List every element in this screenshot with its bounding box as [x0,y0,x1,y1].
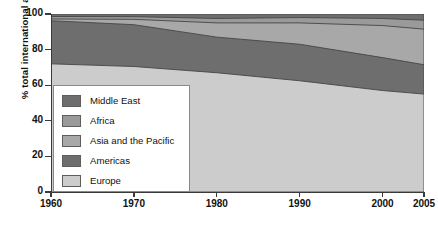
x-tick-label: 1970 [112,198,156,209]
y-tick-label: 60 [0,78,43,89]
x-tick-mark [423,192,424,197]
x-tick-mark [50,192,51,197]
legend-swatch [62,175,81,187]
x-axis-line [51,192,425,193]
y-tick-mark [45,13,51,14]
x-tick-mark [133,192,134,197]
legend-item: Asia and the Pacific [62,131,189,151]
x-tick-label: 2000 [361,198,405,209]
x-tick-mark [382,192,383,197]
x-tick-mark [216,192,217,197]
legend-swatch [62,95,81,107]
legend-label: Americas [90,156,130,166]
stacked-area-chart: % total international arrivals 020406080… [0,0,438,235]
y-tick-label: 100 [0,7,43,18]
x-tick-label: 1980 [195,198,239,209]
legend-swatch [62,115,81,127]
legend-swatch [62,135,81,147]
legend-label: Asia and the Pacific [90,136,174,146]
y-tick-label: 0 [0,185,43,196]
x-tick-label: 2005 [402,198,438,209]
legend-label: Middle East [90,96,140,106]
y-tick-mark [45,120,51,121]
y-tick-label: 40 [0,114,43,125]
legend-swatch [62,155,81,167]
legend-item: Africa [62,111,189,131]
x-tick-label: 1990 [278,198,322,209]
x-tick-label: 1960 [29,198,73,209]
legend-label: Europe [90,176,121,186]
y-axis-title: % total international arrivals [19,0,30,122]
legend-item: Europe [62,171,189,191]
y-tick-mark [45,85,51,86]
legend-label: Africa [90,116,115,126]
y-tick-label: 20 [0,149,43,160]
y-tick-label: 80 [0,43,43,54]
legend-item: Middle East [62,91,189,111]
x-tick-mark [299,192,300,197]
y-tick-mark [45,49,51,50]
legend-item: Americas [62,151,189,171]
legend-box: Middle EastAfricaAsia and the PacificAme… [53,85,190,192]
y-tick-mark [45,156,51,157]
